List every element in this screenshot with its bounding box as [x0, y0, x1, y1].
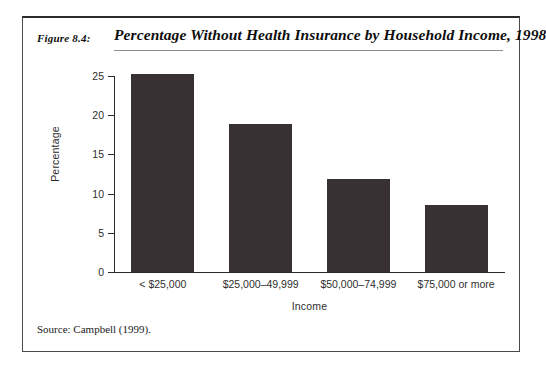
y-axis-tick — [108, 272, 114, 273]
bar — [229, 124, 292, 272]
figure-container: Figure 8.4: Percentage Without Health In… — [22, 16, 520, 352]
bar-series — [114, 76, 505, 272]
bar — [327, 179, 390, 272]
title-divider — [114, 50, 503, 51]
y-axis-tick-label: 20 — [78, 109, 104, 121]
figure-title: Percentage Without Health Insurance by H… — [114, 26, 546, 44]
x-axis-tick-label: < $25,000 — [114, 278, 212, 290]
figure-source: Source: Campbell (1999). — [37, 323, 151, 335]
figure-number: Figure 8.4: — [37, 32, 91, 44]
x-axis-tick-label: $75,000 or more — [407, 278, 505, 290]
x-axis-title: Income — [114, 300, 505, 312]
y-axis-title: Percentage — [49, 99, 61, 209]
y-axis-tick-label: 5 — [78, 227, 104, 239]
x-axis-tick-label: $50,000–74,999 — [310, 278, 408, 290]
y-axis-tick-label: 0 — [78, 266, 104, 278]
y-axis-tick-label: 25 — [78, 70, 104, 82]
y-axis-tick-label: 10 — [78, 188, 104, 200]
chart-plot-area: Percentage 0510152025 < $25,000$25,000–4… — [23, 60, 521, 312]
x-axis-tick-label: $25,000–49,999 — [212, 278, 310, 290]
y-axis-tick-label: 15 — [78, 148, 104, 160]
bar — [425, 205, 488, 272]
bar — [131, 74, 194, 272]
figure-header: Figure 8.4: Percentage Without Health In… — [23, 18, 519, 60]
x-axis-line — [114, 272, 505, 273]
